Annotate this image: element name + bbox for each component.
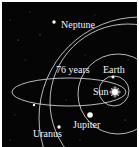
earth-label: Earth: [103, 64, 125, 75]
uranus-label: Uranus: [33, 128, 62, 139]
sun-label: Sun: [93, 86, 109, 97]
comet-dot: [33, 104, 35, 106]
comet-orbit: [12, 78, 126, 106]
jupiter-dot: [87, 112, 93, 118]
sun-icon: [109, 86, 121, 98]
solar-system-diagram: Neptune 76 years Earth Sun Jupiter Uranu…: [2, 2, 137, 147]
comet-period-label: 76 years: [56, 64, 90, 75]
jupiter-label: Jupiter: [73, 119, 101, 130]
orbit-diagram-svg: Neptune 76 years Earth Sun Jupiter Uranu…: [2, 2, 137, 147]
neptune-label: Neptune: [61, 19, 95, 30]
earth-dot: [112, 76, 115, 79]
neptune-dot: [52, 20, 55, 23]
